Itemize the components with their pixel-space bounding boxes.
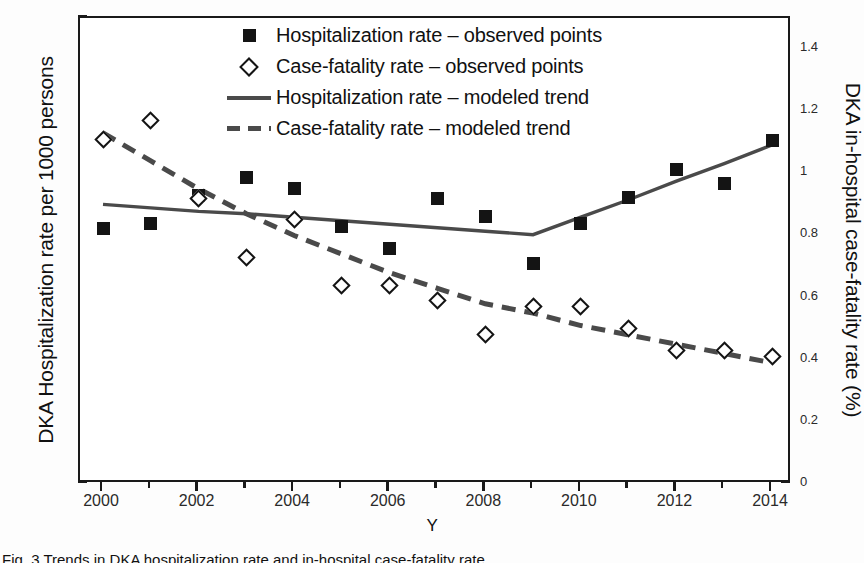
x-tick-mark	[721, 482, 724, 488]
x-tick-mark	[100, 482, 103, 491]
x-tick-mark	[148, 482, 151, 488]
hospitalization-data-point	[670, 163, 683, 176]
filled-square-marker-icon	[222, 29, 276, 42]
y-right-tick-label: 0	[800, 474, 840, 489]
y-right-tick-label: 0.6	[800, 288, 840, 303]
x-tick-mark	[769, 482, 772, 491]
legend-label: Case-fatality rate – modeled trend	[276, 117, 570, 140]
x-tick-mark	[291, 482, 294, 491]
hospitalization-data-point	[240, 171, 253, 184]
legend-label: Hospitalization rate – modeled trend	[276, 86, 589, 109]
solid-line-icon	[222, 96, 276, 100]
legend-label: Case-fatality rate – observed points	[276, 55, 583, 78]
x-tick-label: 2000	[71, 492, 131, 510]
dashed-line-icon	[222, 126, 276, 131]
x-tick-mark	[673, 482, 676, 491]
hospitalization-data-point	[144, 217, 157, 230]
x-tick-mark	[195, 482, 198, 491]
x-tick-label: 2006	[358, 492, 418, 510]
legend-item-hosp-points: Hospitalization rate – observed points	[222, 20, 692, 51]
hospitalization-data-point	[431, 192, 444, 205]
x-tick-mark	[386, 482, 389, 491]
y-right-tick-label: 1	[800, 163, 840, 178]
x-tick-mark	[578, 482, 581, 491]
legend-item-hosp-trend: Hospitalization rate – modeled trend	[222, 82, 692, 113]
x-tick-mark	[625, 482, 628, 488]
figure-caption: Fig. 3 Trends in DKA hospitalization rat…	[2, 551, 485, 563]
x-tick-label: 2010	[549, 492, 609, 510]
hospitalization-data-point	[383, 242, 396, 255]
hospitalization-data-point	[288, 182, 301, 195]
x-tick-mark	[482, 482, 485, 491]
x-tick-mark	[530, 482, 533, 488]
hospitalization-data-point	[574, 217, 587, 230]
x-tick-mark	[243, 482, 246, 488]
y-axis-left-title: DKA Hospitalization rate per 1000 person…	[34, 30, 58, 470]
hospitalization-data-point	[97, 222, 110, 235]
legend-label: Hospitalization rate – observed points	[276, 24, 602, 47]
x-tick-label: 2012	[644, 492, 704, 510]
hospitalization-data-point	[527, 257, 540, 270]
legend-item-cfr-points: Case-fatality rate – observed points	[222, 51, 692, 82]
x-tick-label: 2004	[262, 492, 322, 510]
y-right-tick-label: 1.4	[800, 39, 840, 54]
hospitalization-data-point	[335, 220, 348, 233]
y-right-tick-label: 0.4	[800, 350, 840, 365]
x-tick-mark	[434, 482, 437, 488]
y-right-tick-label: 1.2	[800, 101, 840, 116]
x-tick-label: 2008	[453, 492, 513, 510]
x-tick-mark	[339, 482, 342, 488]
hospitalization-data-point	[479, 210, 492, 223]
hospitalization-data-point	[718, 177, 731, 190]
x-tick-label: 2002	[167, 492, 227, 510]
y-right-tick-label: 0.2	[800, 412, 840, 427]
y-right-tick-label: 0.8	[800, 225, 840, 240]
hospitalization-data-point	[622, 191, 635, 204]
legend: Hospitalization rate – observed points C…	[222, 20, 692, 144]
figure-dka-trends: DKA Hospitalization rate per 1000 person…	[0, 0, 864, 563]
x-axis-title: Y	[0, 516, 864, 536]
x-tick-label: 2014	[740, 492, 800, 510]
hospitalization-data-point	[766, 134, 779, 147]
y-axis-right-title: DKA in-hospital case-fatality rate (%)	[841, 30, 864, 470]
legend-item-cfr-trend: Case-fatality rate – modeled trend	[222, 113, 692, 144]
open-diamond-marker-icon	[222, 60, 276, 74]
